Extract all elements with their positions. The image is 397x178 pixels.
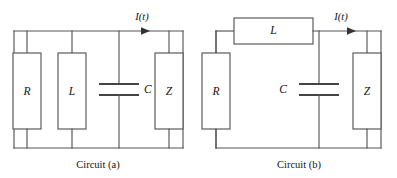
circuit-a-caption: Circuit (a)	[76, 159, 120, 171]
circuit-b-resistor-label: R	[211, 85, 219, 97]
circuit-b-inductor-label: L	[269, 24, 276, 36]
circuit-a-group: R L C Z I(t) Circuit (a)	[13, 11, 183, 171]
circuit-a-resistor-label: R	[22, 85, 30, 97]
circuit-a-inductor-label: L	[68, 85, 75, 97]
circuit-a-current-arrow-icon	[141, 27, 150, 35]
circuit-a-impedance-label: Z	[166, 85, 173, 97]
circuit-b-current-arrow-icon	[347, 27, 356, 35]
circuit-b-capacitor-label: C	[279, 83, 287, 95]
circuit-a-capacitor-label: C	[144, 83, 152, 95]
circuit-b-group: L R C Z I(t) Circuit (b)	[202, 11, 381, 171]
circuit-b-impedance-label: Z	[364, 85, 371, 97]
circuit-b-current-label: I(t)	[333, 11, 348, 23]
circuit-a-current-label: I(t)	[134, 11, 149, 23]
circuit-diagram-canvas: R L C Z I(t) Circuit (a) L	[0, 0, 397, 178]
circuit-b-caption: Circuit (b)	[277, 159, 322, 171]
circuit-figure: R L C Z I(t) Circuit (a) L	[0, 0, 397, 178]
